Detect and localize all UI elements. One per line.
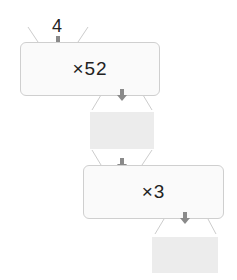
arrow-down-icon bbox=[117, 89, 127, 101]
operation-box-1: ×52 bbox=[20, 42, 160, 96]
start-value: 4 bbox=[52, 17, 62, 35]
arrow-down-icon bbox=[180, 212, 190, 224]
operation-box-2: ×3 bbox=[83, 165, 224, 219]
answer-box-1[interactable] bbox=[90, 112, 154, 149]
operation-label-1: ×52 bbox=[72, 58, 107, 80]
operation-label-2: ×3 bbox=[142, 181, 166, 203]
answer-box-2[interactable] bbox=[152, 237, 218, 273]
